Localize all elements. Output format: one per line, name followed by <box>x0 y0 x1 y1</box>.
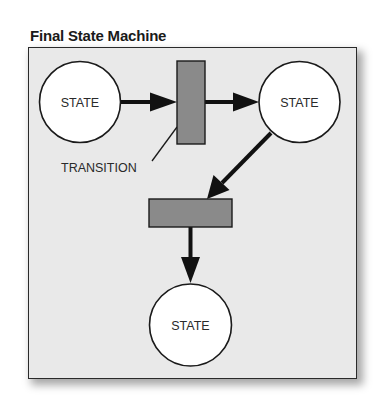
state-right: STATE <box>259 62 340 143</box>
edge-left-to-transition <box>121 93 177 112</box>
edge-transition-to-bottom <box>181 227 200 283</box>
state-left: STATE <box>40 62 121 143</box>
state-machine-diagram: STATE STATE STATE TRANSITION <box>0 0 387 405</box>
state-bottom: STATE <box>150 284 232 366</box>
transition-vertical <box>177 61 205 144</box>
transition-horizontal <box>149 199 232 227</box>
transition-callout-label: TRANSITION <box>61 161 137 175</box>
state-right-label: STATE <box>280 96 318 110</box>
callout-leader-line <box>152 127 177 161</box>
state-bottom-label: STATE <box>171 319 209 333</box>
edge-right-to-transition <box>207 133 271 199</box>
state-left-label: STATE <box>61 96 99 110</box>
edge-transition-to-right <box>205 93 259 112</box>
